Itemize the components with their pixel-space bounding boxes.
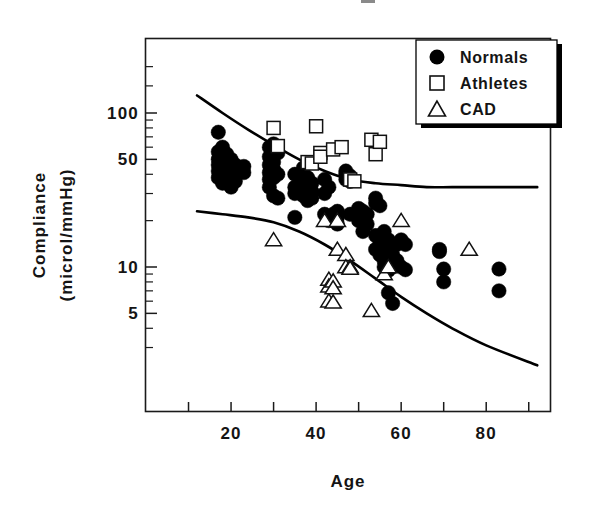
data-point-normal — [271, 191, 285, 205]
data-point-athlete — [369, 148, 382, 161]
data-point-normal — [436, 262, 450, 276]
data-point-athlete — [271, 140, 284, 153]
data-point-normal — [288, 210, 302, 224]
data-point-normal — [211, 125, 225, 139]
legend-label-normals: Normals — [460, 49, 528, 66]
data-point-normal — [436, 275, 450, 289]
x-axis-title: Age — [330, 472, 365, 491]
x-axis-tick-labels: 20406080 — [220, 424, 496, 443]
y-tick-label: 100 — [107, 104, 139, 123]
data-point-athlete — [314, 150, 327, 163]
y-axis-title-line2: (microl/mmHg) — [57, 169, 76, 302]
x-tick-label: 20 — [220, 424, 241, 443]
y-tick-label: 5 — [128, 304, 139, 323]
legend-label-athletes: Athletes — [460, 75, 528, 92]
data-point-cad — [265, 233, 281, 246]
data-point-normal — [492, 284, 506, 298]
data-point-cad — [363, 303, 379, 316]
data-point-normal — [322, 180, 336, 194]
open-square-icon — [430, 76, 444, 90]
data-point-normal — [432, 244, 446, 258]
data-point-athlete — [310, 120, 323, 133]
data-point-normal — [492, 262, 506, 276]
legend[interactable]: NormalsAthletesCAD — [416, 40, 562, 128]
legend-label-cad: CAD — [460, 101, 496, 118]
x-tick-label: 80 — [476, 424, 497, 443]
x-tick-label: 60 — [391, 424, 412, 443]
data-point-normal — [305, 191, 319, 205]
y-tick-label: 10 — [118, 258, 139, 277]
data-point-normal — [237, 165, 251, 179]
data-point-normal — [271, 167, 285, 181]
data-point-athlete — [373, 135, 386, 148]
data-point-normal — [398, 237, 412, 251]
data-point-normal — [373, 199, 387, 213]
filled-circle-icon — [430, 50, 445, 65]
x-tick-label: 40 — [305, 424, 326, 443]
y-axis-ticks — [146, 67, 157, 348]
data-point-cad — [461, 242, 477, 255]
y-axis-title-line1: Compliance — [30, 172, 49, 278]
x-axis-ticks — [189, 402, 529, 411]
cropped-caption-artifact — [361, 0, 375, 3]
y-tick-label: 50 — [118, 150, 139, 169]
data-point-normal — [398, 263, 412, 277]
y-axis-tick-labels: 51050100 — [107, 104, 139, 323]
figure-container: 51050100 20406080 Age Compliance (microl… — [0, 0, 591, 514]
scatter-plot: 51050100 20406080 Age Compliance (microl… — [0, 0, 591, 514]
data-point-normal — [385, 296, 399, 310]
data-point-cad — [393, 213, 409, 226]
data-point-athlete — [348, 175, 361, 188]
data-point-athlete — [335, 141, 348, 154]
data-point-athlete — [267, 121, 280, 134]
